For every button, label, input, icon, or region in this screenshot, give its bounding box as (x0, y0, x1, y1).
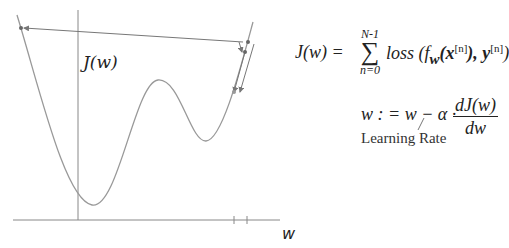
rhs-sup2: [n] (490, 42, 503, 54)
loss-curve (17, 15, 253, 205)
y-axis-label: J(w) (83, 52, 118, 72)
learning-rate-annotation: Learning Rate (361, 130, 446, 147)
x-axis-label: w (282, 224, 295, 243)
rhs-end: ) (503, 43, 509, 63)
sum-lower-limit: n=0 (358, 64, 382, 76)
step-arrow (239, 42, 242, 52)
update-formula-lhs: w : = w − α · (361, 104, 456, 125)
overshoot-arrow (24, 28, 243, 42)
descent-arrow-left (234, 52, 245, 92)
point-marker (246, 40, 250, 44)
point-marker (19, 26, 23, 30)
loss-formula-rhs: loss (fw(x[n]), y[n]) (386, 42, 509, 68)
rhs-prefix: loss (f (386, 43, 430, 63)
rhs-sub: w (430, 51, 440, 67)
rhs-x: (x (440, 43, 455, 63)
rhs-mid: ), y (467, 43, 490, 63)
point-marker (243, 50, 247, 54)
fraction-numerator: dJ(w) (453, 94, 498, 117)
point-marker (232, 90, 236, 94)
gradient-fraction: dJ(w) dw (453, 94, 498, 139)
summation: N-1 ∑ n=0 (358, 28, 382, 76)
loss-formula-lhs: J(w) = (295, 42, 344, 63)
sigma-symbol: ∑ (358, 40, 382, 64)
fraction-denominator: dw (453, 117, 498, 139)
rhs-sup1: [n] (455, 42, 468, 54)
